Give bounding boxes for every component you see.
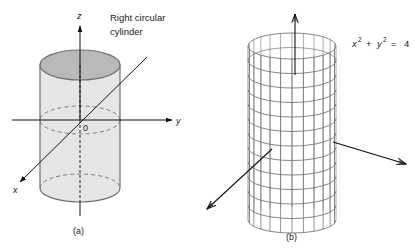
equation-plus: + xyxy=(366,38,372,49)
equation-x: x xyxy=(351,38,358,49)
figure-canvas: z y x 0 Right circular cylinder (a) x 2 … xyxy=(0,0,419,250)
x-axis-label: x xyxy=(12,185,18,195)
figure-b-wireframe-cylinder xyxy=(248,33,336,233)
figure-a-title-line2: cylinder xyxy=(110,26,143,37)
y-axis-label: y xyxy=(175,116,181,126)
equation-y: y xyxy=(376,38,383,49)
equation-y-exponent: 2 xyxy=(383,36,387,43)
equation-equals: = xyxy=(391,38,397,49)
left-axis xyxy=(207,149,272,209)
figure-a-caption: (a) xyxy=(73,226,84,236)
equation: x 2 + y 2 = 4 xyxy=(351,36,409,49)
figure-a-title-line1: Right circular xyxy=(110,12,165,23)
equation-rhs: 4 xyxy=(404,38,409,49)
equation-x-exponent: 2 xyxy=(358,36,362,43)
z-axis-label: z xyxy=(76,11,82,21)
right-axis xyxy=(333,142,406,164)
origin-label: 0 xyxy=(83,123,88,133)
figure-b-caption: (b) xyxy=(286,232,297,242)
